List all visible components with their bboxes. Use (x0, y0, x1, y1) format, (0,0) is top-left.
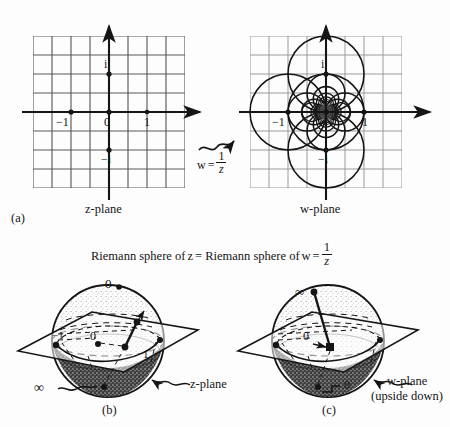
sphere-b-plane-caption: z-plane (190, 378, 227, 391)
w-plane-label-minus-i: −i (318, 153, 328, 166)
sphere-b-plane-caption-text: -plane (196, 377, 227, 391)
sphere-c-plane-caption-note: (upside down) (371, 390, 443, 403)
w-plane-label-i: i (321, 58, 324, 71)
panel-c-tag: (c) (322, 404, 336, 417)
sphere-b-south-pole-dot (101, 384, 107, 390)
mapping-equation: w = 1 z (197, 152, 226, 178)
w-plane-label-one: 1 (362, 116, 368, 129)
mapping-arrow-icon (199, 141, 234, 150)
z-plane-label-i: i (104, 58, 107, 71)
sphere-b-plane-pointer-icon (152, 380, 190, 385)
sphere-b-north-pole-dot (116, 284, 122, 290)
middle-caption-part1: Riemann sphere of (91, 250, 185, 263)
w-plane-caption: w-plane (300, 203, 340, 216)
middle-caption: Riemann sphere of z = Riemann sphere of … (91, 243, 332, 270)
mapping-equation-denominator: z (216, 163, 226, 176)
w-plane-diagram (239, 26, 430, 200)
sphere-c-north-pole-label: ∞ (295, 285, 304, 299)
sphere-c-plane-caption: w-plane (387, 375, 427, 388)
figure-canvas (0, 0, 450, 427)
w-plane-caption-text: -plane (309, 202, 340, 216)
z-plane-label-one: 1 (144, 116, 150, 129)
sphere-b-plane (18, 312, 198, 372)
sphere-c-south-pole-dot (315, 384, 321, 390)
sphere-c-plane-caption-text: -plane (396, 374, 427, 388)
z-plane-caption: z-plane (85, 203, 122, 216)
riemann-sphere-b (18, 284, 198, 397)
middle-caption-equals: = (313, 250, 320, 263)
middle-caption-fraction: 1 z (322, 241, 332, 268)
z-plane-caption-text: -plane (91, 202, 122, 216)
sphere-c-origin-label: 0 (303, 330, 309, 343)
z-plane-label-minus-i: −i (101, 153, 111, 166)
mapping-equation-lhs: w (197, 159, 206, 172)
panel-b-tag: (b) (102, 404, 117, 417)
sphere-b-minus-one-label: −1 (52, 330, 64, 342)
sphere-b-infinity-label: ∞ (34, 381, 44, 396)
middle-caption-w: w (302, 250, 311, 263)
middle-caption-part2: = Riemann sphere of (195, 250, 300, 263)
figure-riemann-sphere-inversion: −1 0 1 i −i −1 1 i −i w = 1 z z-plane w-… (0, 0, 450, 427)
sphere-b-origin-label: 0 (90, 330, 96, 343)
mapping-equation-equals: = (208, 159, 215, 172)
sphere-c-plane-caption-symbol: w (387, 374, 396, 388)
w-plane-label-minus-one: −1 (272, 116, 285, 129)
middle-caption-denominator: z (322, 255, 332, 268)
z-plane-diagram (22, 26, 200, 200)
z-plane-label-zero: 0 (104, 116, 110, 129)
mapping-equation-fraction: 1 z (216, 150, 226, 176)
w-plane-caption-symbol: w (300, 202, 309, 216)
sphere-b-one-label: 1 (143, 349, 149, 361)
w-plane-axes (239, 26, 430, 200)
sphere-b-north-pole-label: 0 (105, 277, 112, 291)
sphere-c-bottom-zero-label: 0 (344, 379, 350, 392)
middle-caption-z: z (187, 250, 193, 263)
middle-caption-numerator: 1 (322, 241, 332, 255)
z-plane-label-minus-one: −1 (56, 116, 69, 129)
panel-a-tag: (a) (11, 212, 25, 225)
